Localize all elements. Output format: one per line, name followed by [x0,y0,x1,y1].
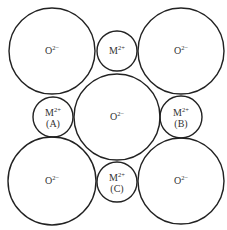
ion-label: O2− [45,174,59,186]
ion-o-top-right: O2− [138,8,224,94]
ion-label: M2+ [109,171,125,183]
ion-m-a: M2+ (A) [33,97,73,137]
ion-label: O2− [45,44,59,56]
ion-tag: (A) [46,118,60,130]
ion-label: O2− [110,110,124,122]
ion-label: M2+ [173,106,189,118]
ion-o-bottom-left: O2− [8,137,96,225]
ion-tag: (B) [174,118,187,130]
ion-m-top: M2+ [97,31,137,71]
ion-o-bottom-right: O2− [138,138,224,224]
ion-label: O2− [174,44,188,56]
ion-lattice-diagram: O2− M2+ O2− M2+ (A) O2− M2+ (B) O2− M2+ … [0,0,227,230]
ion-label: M2+ [45,106,61,118]
ion-tag: (C) [110,183,123,195]
ion-label: M2+ [109,44,125,56]
ion-label: O2− [174,174,188,186]
ion-o-center: O2− [74,74,160,160]
ion-m-b: M2+ (B) [160,96,202,138]
ion-m-c: M2+ (C) [97,162,137,202]
ion-o-top-left: O2− [9,8,95,94]
